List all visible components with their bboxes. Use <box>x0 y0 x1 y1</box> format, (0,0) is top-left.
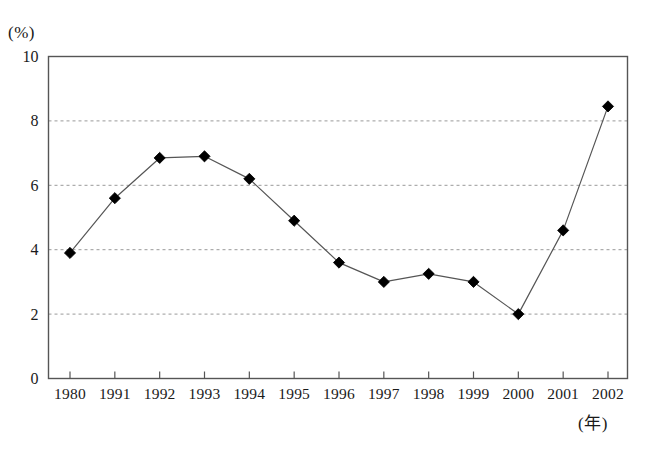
plot-border <box>49 57 628 379</box>
line-chart: (%) (年) 0246810 198019911992199319941995… <box>0 0 649 458</box>
data-line <box>70 106 608 314</box>
y-axis-tick-labels: 0246810 <box>23 48 39 387</box>
data-point-marker <box>199 151 210 162</box>
x-axis-tick-label: 2001 <box>547 385 579 402</box>
x-axis-tick-label: 1998 <box>413 385 445 402</box>
plot-frame <box>49 57 628 379</box>
x-axis-tick-label: 1996 <box>323 385 355 402</box>
x-axis-ticks <box>70 372 608 379</box>
chart-plot-area: 0246810 19801991199219931994199519961997… <box>0 0 649 458</box>
x-axis-tick-label: 2002 <box>592 385 624 402</box>
data-point-marker <box>602 101 613 112</box>
y-axis-tick-label: 10 <box>23 48 39 65</box>
y-axis-tick-label: 4 <box>31 241 39 258</box>
x-axis-tick-labels: 1980199119921993199419951996199719981999… <box>54 385 624 402</box>
x-axis-tick-label: 1995 <box>278 385 310 402</box>
x-axis-tick-label: 1991 <box>99 385 131 402</box>
data-point-marker <box>378 276 389 287</box>
data-point-marker <box>513 309 524 320</box>
x-axis-tick-label: 1980 <box>54 385 86 402</box>
series-polyline <box>70 106 608 314</box>
data-point-marker <box>423 268 434 279</box>
data-point-marker <box>468 276 479 287</box>
x-axis-tick-label: 1993 <box>189 385 221 402</box>
data-point-marker <box>558 225 569 236</box>
x-axis-tick-label: 1994 <box>233 385 265 402</box>
x-axis-tick-label: 1997 <box>368 385 400 402</box>
x-axis-tick-label: 1999 <box>458 385 490 402</box>
gridlines <box>49 121 628 314</box>
x-axis-tick-label: 2000 <box>502 385 534 402</box>
y-axis-tick-label: 2 <box>31 306 39 323</box>
data-point-markers <box>64 101 613 320</box>
y-axis-tick-label: 8 <box>31 112 39 129</box>
x-axis-tick-label: 1992 <box>144 385 176 402</box>
y-axis-tick-label: 0 <box>31 370 39 387</box>
y-axis-tick-label: 6 <box>31 177 39 194</box>
